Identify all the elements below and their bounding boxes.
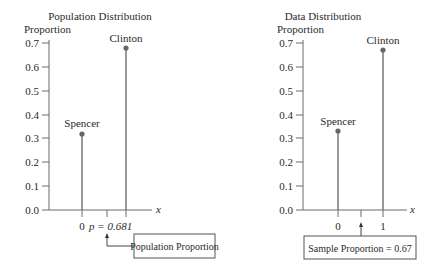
p-value-label: p = 0.681 xyxy=(88,220,132,232)
arrow-up-icon xyxy=(105,233,109,238)
clinton-dot xyxy=(380,47,385,52)
arrow-up-icon xyxy=(359,222,363,227)
y-ticks xyxy=(42,43,49,210)
x-axis-label: x xyxy=(409,203,415,215)
svg-text:0.2: 0.2 xyxy=(25,156,39,168)
population-distribution-chart: Population Distribution Proportion 0.7 0… xyxy=(24,10,219,258)
y-axis-label: Proportion xyxy=(277,23,325,35)
chart-title: Data Distribution xyxy=(285,10,362,22)
svg-text:0.0: 0.0 xyxy=(279,204,293,216)
spencer-label: Spencer xyxy=(64,117,100,129)
svg-text:0.3: 0.3 xyxy=(279,132,293,144)
svg-text:0.4: 0.4 xyxy=(279,109,293,121)
y-tick-labels: 0.7 0.6 0.5 0.4 0.3 0.2 0.1 0.0 xyxy=(25,37,39,216)
clinton-dot xyxy=(123,45,128,50)
svg-text:0.2: 0.2 xyxy=(279,156,293,168)
svg-text:0.0: 0.0 xyxy=(25,204,39,216)
clinton-label: Clinton xyxy=(109,32,143,44)
population-proportion-label: Population Proportion xyxy=(130,241,219,252)
spencer-dot xyxy=(79,131,84,136)
x-axis-label: x xyxy=(155,203,161,215)
svg-text:0.6: 0.6 xyxy=(279,61,293,73)
y-axis-label: Proportion xyxy=(24,23,72,35)
svg-text:0.5: 0.5 xyxy=(279,85,293,97)
svg-text:0.3: 0.3 xyxy=(25,132,39,144)
clinton-label: Clinton xyxy=(366,34,400,46)
spencer-label: Spencer xyxy=(320,115,356,127)
x-label-0: 0 xyxy=(335,220,341,232)
svg-text:0.1: 0.1 xyxy=(279,180,293,192)
y-tick-labels: 0.7 0.6 0.5 0.4 0.3 0.2 0.1 0.0 xyxy=(279,37,293,216)
charts-canvas: Population Distribution Proportion 0.7 0… xyxy=(0,0,430,271)
chart-title: Population Distribution xyxy=(48,10,152,22)
svg-text:0.4: 0.4 xyxy=(25,109,39,121)
svg-text:0.7: 0.7 xyxy=(25,37,39,49)
svg-text:0.1: 0.1 xyxy=(25,180,39,192)
svg-text:0.5: 0.5 xyxy=(25,85,39,97)
spencer-dot xyxy=(335,128,340,133)
y-ticks xyxy=(296,43,303,210)
sample-proportion-label: Sample Proportion = 0.67 xyxy=(308,243,411,254)
data-distribution-chart: Data Distribution Proportion 0.7 0.6 0.5… xyxy=(277,10,416,259)
x-label-0: 0 xyxy=(79,220,85,232)
x-label-1: 1 xyxy=(380,220,386,232)
svg-text:0.7: 0.7 xyxy=(279,37,293,49)
svg-text:0.6: 0.6 xyxy=(25,61,39,73)
